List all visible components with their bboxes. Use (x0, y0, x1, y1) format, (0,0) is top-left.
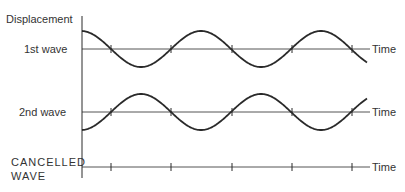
wave-interference-diagram (0, 0, 405, 192)
